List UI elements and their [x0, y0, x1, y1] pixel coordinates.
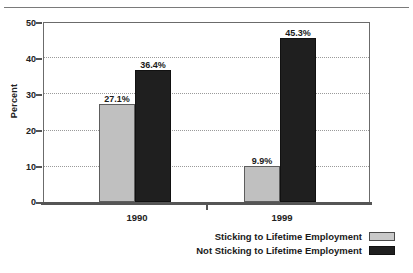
- header-divider: [4, 7, 409, 8]
- gridline-20: [44, 130, 369, 131]
- black-swatch-icon: [369, 246, 395, 255]
- data-label-1990-not-sticking: 36.4%: [123, 60, 183, 70]
- y-axis-title: Percent: [9, 71, 19, 131]
- legend-label-not-sticking: Not Sticking to Lifetime Employment: [196, 245, 362, 256]
- x-tick-label-1990: 1990: [107, 212, 167, 223]
- plot-area: 27.1% 36.4% 9.9% 45.3%: [43, 22, 370, 203]
- y-tick-label-40: 40: [14, 54, 36, 64]
- y-tick-mark-10: [36, 166, 42, 168]
- bar-1990-sticking: [99, 104, 135, 202]
- legend-item-sticking: Sticking to Lifetime Employment: [180, 229, 395, 243]
- y-tick-mark-30: [36, 94, 42, 96]
- x-tick-mark-center: [206, 203, 208, 210]
- y-tick-label-30: 30: [14, 90, 36, 100]
- y-tick-label-0: 0: [14, 197, 36, 207]
- y-tick-mark-50: [36, 22, 42, 24]
- chart-legend: Sticking to Lifetime Employment Not Stic…: [180, 229, 395, 257]
- data-label-1999-not-sticking: 45.3%: [268, 28, 328, 38]
- gridline-10: [44, 166, 369, 167]
- legend-label-sticking: Sticking to Lifetime Employment: [215, 231, 362, 242]
- gray-swatch-icon: [369, 232, 395, 241]
- chart-figure: Percent 50 40 30 20 10 0 27.1% 36.4% 9.9…: [0, 0, 413, 273]
- y-tick-label-20: 20: [14, 126, 36, 136]
- data-label-1990-sticking: 27.1%: [87, 94, 147, 104]
- data-label-1999-sticking: 9.9%: [232, 156, 292, 166]
- bar-1999-not-sticking: [280, 38, 316, 202]
- legend-item-not-sticking: Not Sticking to Lifetime Employment: [180, 243, 395, 257]
- bar-1990-not-sticking: [135, 70, 171, 202]
- x-tick-label-1999: 1999: [252, 212, 312, 223]
- bar-1999-sticking: [244, 166, 280, 202]
- y-tick-label-50: 50: [14, 18, 36, 28]
- y-tick-mark-40: [36, 58, 42, 60]
- y-tick-mark-20: [36, 130, 42, 132]
- y-tick-label-10: 10: [14, 162, 36, 172]
- gridline-40: [44, 57, 369, 58]
